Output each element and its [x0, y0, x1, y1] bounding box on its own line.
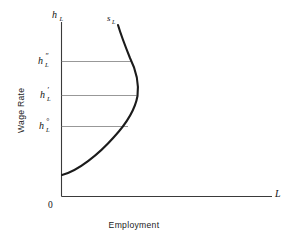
h-L-prime-subscript: L — [46, 95, 51, 102]
h-L-double-prime-base: h — [38, 55, 43, 66]
x-axis-variable-label: L — [274, 188, 281, 199]
h-L-naught-base: h — [39, 120, 44, 131]
h-L-naught-subscript: L — [45, 126, 50, 133]
chart-background — [0, 0, 298, 235]
y-axis-title: Wage Rate — [16, 88, 26, 133]
origin-label: 0 — [48, 200, 53, 210]
x-axis-title: Employment — [109, 220, 160, 230]
figure-container: h L L 0 h L ″ h L ′ h L ° s L — [0, 0, 298, 235]
y-axis-variable-base: h — [52, 9, 57, 20]
y-axis-variable-subscript: L — [59, 15, 64, 22]
h-L-prime-base: h — [40, 89, 45, 100]
curve-label-subscript: L — [111, 18, 116, 25]
curve-label-base: s — [107, 13, 111, 23]
backward-bending-labor-supply-chart: h L L 0 h L ″ h L ′ h L ° s L — [0, 0, 298, 235]
h-L-double-prime-subscript: L — [44, 61, 49, 68]
h-L-prime-superscript: ′ — [47, 86, 49, 95]
